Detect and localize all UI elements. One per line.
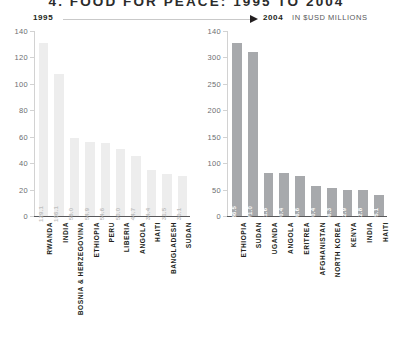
bar-column[interactable]: 58.0 (70, 138, 80, 216)
bar-column[interactable]: 54.6 (101, 143, 111, 216)
y-axis-tick-label: 80 (0, 106, 28, 115)
bar-column[interactable]: 35.1 (374, 195, 384, 216)
x-axis-category-label: LIBERIA (123, 222, 130, 252)
page-title-text: 4. FOOD FOR PEACE: 1995 TO 2004 (49, 0, 345, 9)
bar-column[interactable]: 129.1 (39, 43, 49, 216)
bar-column[interactable]: 30.1 (178, 176, 188, 216)
x-axis-category-label: INDIA (62, 222, 69, 243)
bar-value-label: 54.6 (99, 208, 105, 220)
bar-column[interactable]: 271.0 (248, 52, 258, 216)
bar-column[interactable]: 50.0 (116, 149, 126, 216)
bar[interactable] (70, 138, 80, 216)
bar-value-label: 106.1 (53, 206, 59, 222)
bar-column[interactable]: 34.4 (147, 170, 157, 216)
y-axis-tick-mark (223, 190, 227, 191)
y-axis-tick-mark (30, 57, 34, 58)
bar-column[interactable]: 71.6 (264, 173, 274, 216)
y-axis-tick-label: 120 (0, 53, 28, 62)
y-axis-tick-mark (223, 110, 227, 111)
x-axis-category-label: ANGOLA (287, 222, 294, 254)
bar-value-label: 35.1 (373, 208, 379, 220)
bar-value-label: 129.1 (38, 206, 44, 222)
bar-column[interactable]: 44.7 (131, 156, 141, 216)
header-units: IN $USD MILLIONS (292, 13, 367, 22)
x-axis-category-label: KENYA (350, 222, 357, 247)
x-axis-category-label: HAITI (382, 222, 389, 242)
chart-panel-2004: 286.5271.071.670.466.650.446.342.942.835… (196, 26, 393, 344)
x-axis-category-label: ERITREA (303, 222, 310, 255)
y-axis-tick-label: 250 (196, 79, 221, 88)
bar-value-label: 271.0 (247, 206, 253, 222)
x-axis-category-label: UGANDA (271, 222, 278, 254)
bar-value-label: 54.9 (84, 208, 90, 220)
bar-value-label: 34.4 (145, 208, 151, 220)
x-axis-category-label: INDIA (366, 222, 373, 243)
bar-value-label: 50.4 (310, 208, 316, 220)
bar[interactable] (54, 74, 64, 216)
bar-series-2004: 286.5271.071.670.466.650.446.342.942.835… (229, 31, 387, 216)
y-axis-tick-label: 140 (196, 27, 221, 36)
y-axis-tick-label: 0 (196, 212, 221, 221)
bar-column[interactable]: 42.9 (343, 190, 353, 216)
bar-column[interactable]: 42.8 (358, 190, 368, 216)
y-axis-tick-mark (30, 216, 34, 217)
y-axis-tick-mark (30, 31, 34, 32)
bar-series-1995: 129.1106.158.054.954.650.044.734.431.530… (36, 31, 190, 216)
bar-column[interactable]: 286.5 (232, 43, 242, 216)
bar-column[interactable]: 106.1 (54, 74, 64, 216)
y-axis-tick-mark (223, 216, 227, 217)
bar[interactable] (85, 142, 95, 216)
y-axis-tick-mark (30, 110, 34, 111)
y-axis-tick-mark (223, 84, 227, 85)
x-axis-category-label: ETHIOPIA (240, 222, 247, 258)
y-axis-tick-label: 200 (196, 106, 221, 115)
bar-value-label: 66.6 (294, 208, 300, 220)
bar-column[interactable]: 66.6 (295, 176, 305, 216)
y-axis-tick-label: 0 (0, 212, 28, 221)
y-axis-tick-label: 150 (196, 132, 221, 141)
y-axis-tick-label: 60 (0, 132, 28, 141)
bar-value-label: 44.7 (130, 208, 136, 220)
bar-value-label: 71.6 (262, 208, 268, 220)
bar[interactable] (39, 43, 49, 216)
y-axis-tick-mark (223, 57, 227, 58)
y-axis-tick-label: 100 (0, 79, 28, 88)
y-axis-tick-label: 50 (196, 185, 221, 194)
x-axis-category-label: HAITI (154, 222, 161, 242)
y-axis-tick-mark (223, 163, 227, 164)
bar-value-label: 46.3 (326, 208, 332, 220)
right-arrow-icon (250, 15, 258, 23)
plot-area-2004: 286.5271.071.670.466.650.446.342.942.835… (196, 26, 393, 221)
y-axis-tick-mark (30, 84, 34, 85)
bar[interactable] (116, 149, 126, 216)
y-axis-tick-mark (223, 137, 227, 138)
x-axis-category-label: BANGLADESH (170, 222, 177, 274)
bar-column[interactable]: 50.4 (311, 186, 321, 216)
y-axis-tick-mark (223, 31, 227, 32)
x-axis-category-label: ANGOLA (139, 222, 146, 254)
chart-panel-1995: 129.1106.158.054.954.650.044.734.431.530… (0, 26, 196, 344)
bar-value-label: 50.0 (115, 208, 121, 220)
bar-column[interactable]: 54.9 (85, 142, 95, 216)
bar[interactable] (232, 43, 242, 216)
bar-value-label: 58.0 (68, 208, 74, 220)
bar-value-label: 30.1 (176, 208, 182, 220)
page-title: 4. FOOD FOR PEACE: 1995 TO 2004 (0, 0, 393, 9)
x-axis-category-label: SUDAN (185, 222, 192, 248)
header-year-from: 1995 (33, 13, 53, 22)
y-axis-tick-label: 140 (0, 27, 28, 36)
x-axis-category-label: RWANDA (46, 222, 53, 255)
bar-value-label: 70.4 (278, 208, 284, 220)
x-axis-category-label: ETHIOPIA (93, 222, 100, 258)
x-axis-category-label: PERU (108, 222, 115, 243)
bar[interactable] (248, 52, 258, 216)
y-axis-tick-label: 20 (0, 185, 28, 194)
plot-area-1995: 129.1106.158.054.954.650.044.734.431.530… (0, 26, 196, 221)
bar-column[interactable]: 46.3 (327, 188, 337, 216)
bar[interactable] (101, 143, 111, 216)
y-axis-tick-label: 300 (196, 53, 221, 62)
header-rule (63, 19, 250, 20)
bar-column[interactable]: 70.4 (279, 173, 289, 216)
header-year-to: 2004 (263, 13, 283, 22)
bar-column[interactable]: 31.5 (162, 174, 172, 216)
